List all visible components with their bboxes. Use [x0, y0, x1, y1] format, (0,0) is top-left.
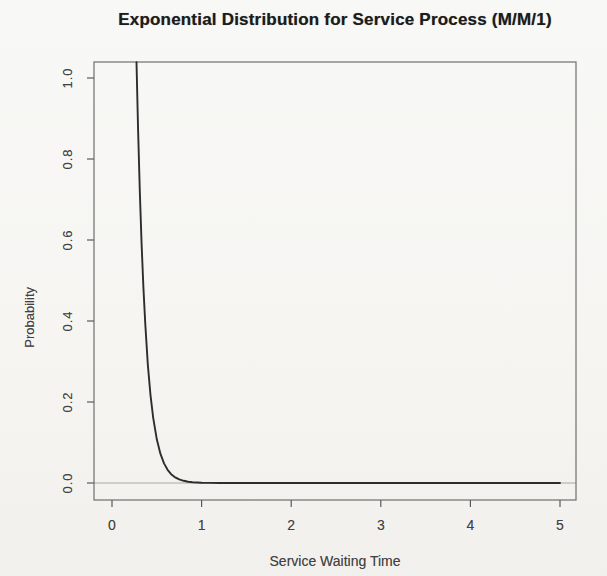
x-tick-label: 4: [450, 517, 490, 533]
x-tick-label: 0: [92, 517, 132, 533]
x-tick-label: 5: [540, 517, 580, 533]
exponential-distribution-figure: Exponential Distribution for Service Pro…: [0, 0, 607, 576]
x-axis-label: Service Waiting Time: [94, 553, 576, 569]
x-tick-label: 1: [182, 517, 222, 533]
x-tick-label: 3: [361, 517, 401, 533]
density-curve: [137, 62, 561, 483]
x-tick-label: 2: [271, 517, 311, 533]
plot-box: [94, 62, 576, 500]
y-axis-label-text: Probability: [21, 287, 36, 348]
plot-canvas: [0, 0, 607, 576]
